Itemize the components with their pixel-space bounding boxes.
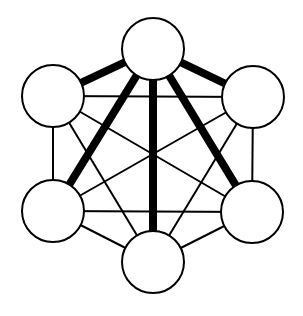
node-left-upper [22,65,84,127]
node-left-lower [22,180,84,242]
node-right-upper [222,66,284,128]
network-diagram [0,0,303,316]
node-top [122,18,184,80]
node-right-lower [221,181,283,243]
node-bottom [122,231,184,293]
